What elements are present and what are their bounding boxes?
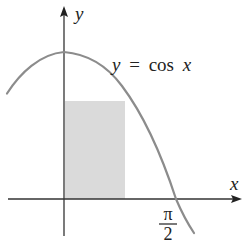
tick-numerator: π (163, 204, 172, 224)
shaded-rectangle (65, 101, 125, 199)
tick-denominator: 2 (164, 224, 173, 244)
x-axis-label: x (229, 173, 239, 194)
curve-label-equals: = (129, 54, 140, 75)
curve-label-cos: cos (149, 54, 174, 75)
svg-text:y = cos x: y = cos x (110, 54, 192, 75)
curve-label-x: x (182, 54, 192, 75)
curve-label-y: y (110, 54, 121, 75)
cosine-diagram: y = cos x y x π 2 (0, 0, 243, 246)
tick-label-pi-over-2: π 2 (159, 204, 177, 244)
y-axis-label: y (73, 3, 84, 24)
